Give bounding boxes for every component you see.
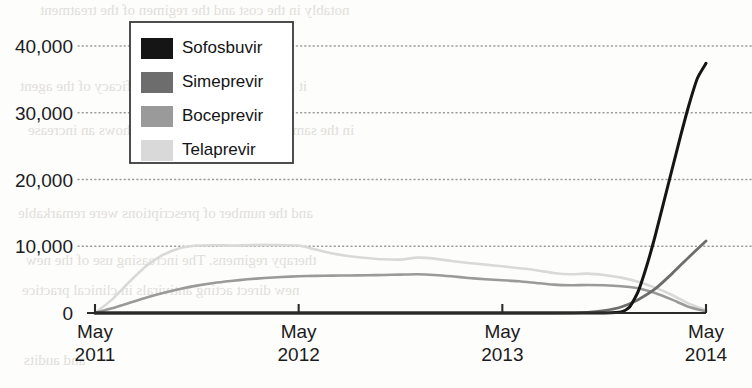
legend-label: Telaprevir (182, 140, 256, 159)
y-tick-label: 0 (62, 303, 73, 324)
chart-legend[interactable]: SofosbuvirSimeprevirBoceprevirTelaprevir (130, 22, 293, 163)
series-line-boceprevir (95, 274, 706, 313)
legend-item[interactable]: Telaprevir (141, 140, 256, 161)
legend-item[interactable]: Sofosbuvir (141, 38, 263, 59)
legend-label: Simeprevir (182, 72, 264, 91)
x-tick-month: May (484, 321, 520, 342)
x-tick-year: 2014 (685, 344, 728, 365)
x-tick-month: May (688, 321, 724, 342)
line-chart-figure: 010,00020,00030,00040,000 May2011May2012… (0, 0, 752, 388)
y-tick-label: 20,000 (15, 170, 73, 191)
legend-item[interactable]: Simeprevir (141, 72, 264, 93)
legend-label: Boceprevir (182, 106, 264, 125)
legend-swatch-sofosbuvir (141, 38, 173, 59)
legend-swatch-telaprevir (141, 140, 173, 161)
y-axis-tick-labels: 010,00020,00030,00040,000 (15, 36, 73, 324)
legend-item[interactable]: Boceprevir (141, 106, 264, 127)
legend-swatch-boceprevir (141, 106, 173, 127)
legend-label: Sofosbuvir (182, 38, 263, 57)
y-tick-label: 40,000 (15, 36, 73, 57)
y-tick-label: 10,000 (15, 236, 73, 257)
legend-swatch-simeprevir (141, 72, 173, 93)
x-tick-month: May (77, 321, 113, 342)
x-tick-year: 2011 (75, 344, 116, 365)
x-tick-year: 2012 (278, 344, 320, 365)
x-axis-tick-labels: May2011May2012May2013May2014 (75, 321, 728, 365)
x-tick-year: 2013 (481, 344, 523, 365)
x-tick-month: May (281, 321, 317, 342)
series-line-telaprevir (95, 245, 706, 313)
y-tick-label: 30,000 (15, 103, 73, 124)
prescriptions-line-chart: 010,00020,00030,00040,000 May2011May2012… (0, 0, 752, 388)
